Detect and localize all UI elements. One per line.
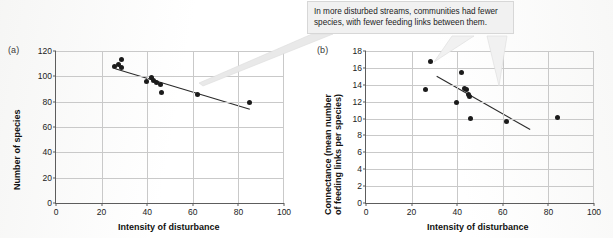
stream-disturbance-figure: (a) Number of species Intensity of distu… [0, 0, 613, 238]
callout-tails [0, 0, 613, 238]
callout-annotation: In more disturbed streams, communities h… [307, 1, 514, 34]
callout-tail-to-panel-b [487, 36, 507, 86]
callout-tail-to-panel-a [434, 36, 474, 62]
callout-tail-left [199, 34, 333, 86]
